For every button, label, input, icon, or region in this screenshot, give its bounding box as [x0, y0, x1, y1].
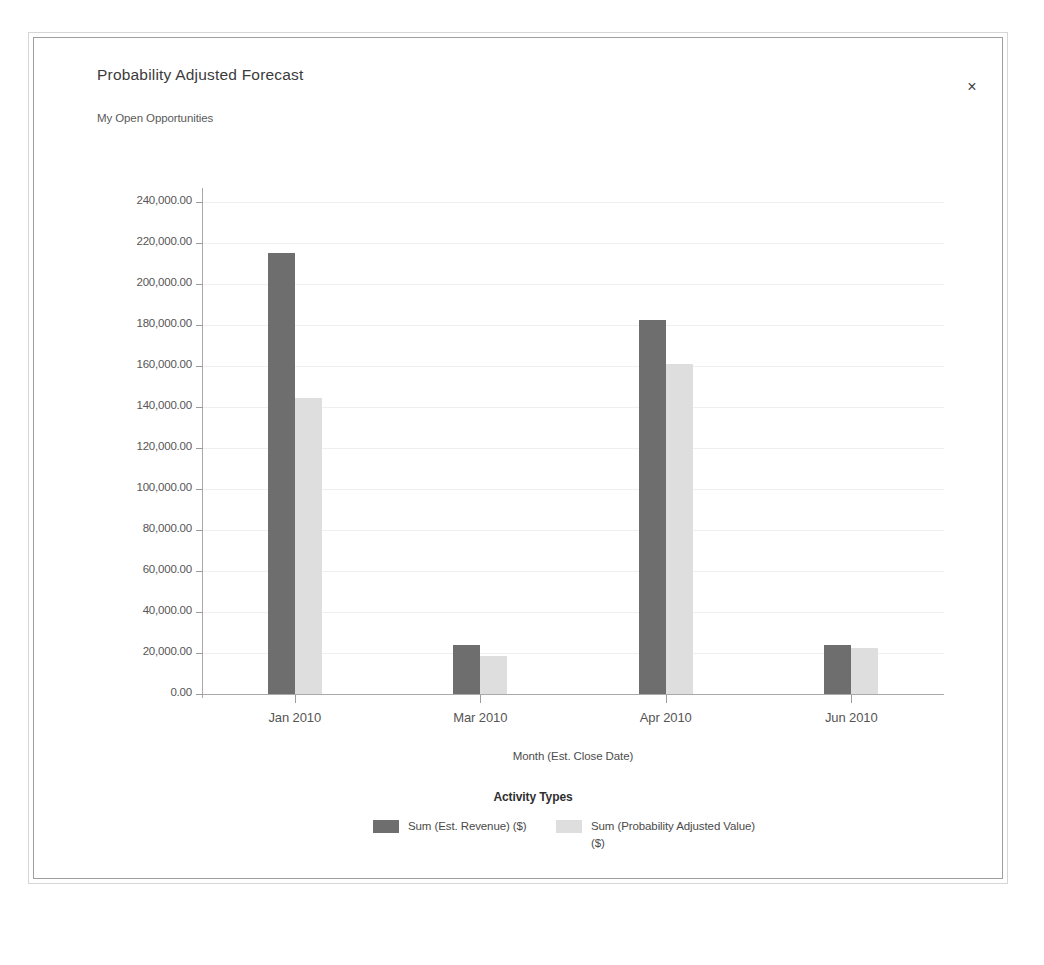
x-axis-tick-label: Apr 2010 — [586, 710, 746, 725]
y-axis-tick-label: 140,000.00 — [136, 399, 192, 411]
y-axis-tick-label: 80,000.00 — [143, 522, 192, 534]
y-axis-tick — [196, 653, 203, 654]
x-axis-tick — [851, 695, 852, 703]
bar[interactable] — [453, 645, 480, 694]
x-axis-tick-label: Jan 2010 — [215, 710, 375, 725]
legend-items: Sum (Est. Revenue) ($)Sum (Probability A… — [34, 818, 1002, 868]
bar-chart: 0.0020,000.0040,000.0060,000.0080,000.00… — [34, 38, 1002, 878]
gridline — [202, 202, 944, 203]
y-axis-tick — [196, 243, 203, 244]
y-axis-tick — [196, 325, 203, 326]
x-axis-tick — [480, 695, 481, 703]
y-axis-tick-label: 120,000.00 — [136, 440, 192, 452]
y-axis-tick — [196, 366, 203, 367]
y-axis-tick — [196, 571, 203, 572]
plot-area — [202, 192, 944, 694]
gridline — [202, 366, 944, 367]
gridline — [202, 243, 944, 244]
legend-swatch-icon — [556, 820, 582, 833]
y-axis-tick-label: 180,000.00 — [136, 317, 192, 329]
gridline — [202, 284, 944, 285]
gridline — [202, 325, 944, 326]
y-axis-tick — [196, 530, 203, 531]
y-axis-tick — [196, 284, 203, 285]
y-axis-tick-label: 220,000.00 — [136, 235, 192, 247]
chart-dialog-body: Probability Adjusted Forecast My Open Op… — [33, 37, 1003, 879]
legend-item[interactable]: Sum (Probability Adjusted Value) ($) — [556, 818, 766, 852]
x-axis-tick-label: Mar 2010 — [400, 710, 560, 725]
x-axis-tick-label: Jun 2010 — [771, 710, 931, 725]
bar[interactable] — [268, 253, 295, 694]
legend-item-label: Sum (Probability Adjusted Value) ($) — [591, 818, 766, 852]
x-axis-tick — [666, 695, 667, 703]
bar[interactable] — [851, 648, 878, 694]
y-axis-tick-label: 160,000.00 — [136, 358, 192, 370]
y-axis-tick-label: 100,000.00 — [136, 481, 192, 493]
y-axis-tick — [196, 694, 203, 695]
app-root: Probability Adjusted Forecast My Open Op… — [0, 0, 1044, 965]
y-axis-tick — [196, 612, 203, 613]
y-axis-tick-label: 200,000.00 — [136, 276, 192, 288]
y-axis-tick — [196, 489, 203, 490]
bar[interactable] — [666, 364, 693, 694]
y-axis-tick-label: 40,000.00 — [143, 604, 192, 616]
y-axis-labels: 0.0020,000.0040,000.0060,000.0080,000.00… — [34, 38, 192, 878]
bar[interactable] — [824, 645, 851, 694]
bar[interactable] — [480, 656, 507, 694]
y-axis-tick-label: 0.00 — [170, 686, 192, 698]
y-axis-tick-label: 240,000.00 — [136, 194, 192, 206]
legend-title: Activity Types — [64, 790, 1002, 804]
bar[interactable] — [295, 398, 322, 694]
chart-legend: Activity Types Sum (Est. Revenue) ($)Sum… — [34, 790, 1002, 868]
y-axis-tick — [196, 202, 203, 203]
legend-item-label: Sum (Est. Revenue) ($) — [408, 818, 527, 835]
x-axis-line — [202, 694, 944, 695]
chart-dialog-window: Probability Adjusted Forecast My Open Op… — [28, 32, 1008, 884]
y-axis-tick-label: 60,000.00 — [143, 563, 192, 575]
legend-swatch-icon — [373, 820, 399, 833]
y-axis-tick — [196, 448, 203, 449]
legend-item[interactable]: Sum (Est. Revenue) ($) — [373, 818, 527, 835]
bar[interactable] — [639, 320, 666, 694]
x-axis-title: Month (Est. Close Date) — [202, 750, 944, 762]
y-axis-tick-label: 20,000.00 — [143, 645, 192, 657]
y-axis-tick — [196, 407, 203, 408]
x-axis-tick — [295, 695, 296, 703]
